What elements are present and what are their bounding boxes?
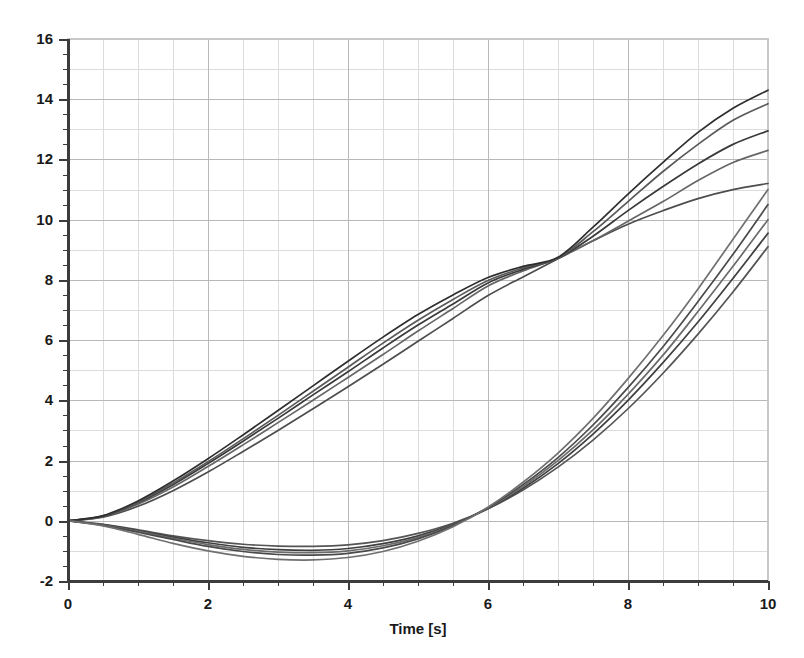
line-chart: 0246810 -20246810121416 Time [s]	[0, 0, 804, 658]
chart-container: 0246810 -20246810121416 Time [s]	[0, 0, 804, 658]
y-tick-label: 10	[36, 211, 53, 228]
y-tick-label: 6	[45, 331, 53, 348]
x-tick-label: 0	[64, 595, 72, 612]
y-tick-label: 8	[45, 271, 53, 288]
y-tick-label: 2	[45, 452, 53, 469]
y-tick-label: 4	[45, 391, 54, 408]
x-tick-label: 8	[624, 595, 632, 612]
x-tick-label: 4	[344, 595, 353, 612]
y-tick-label: 16	[36, 30, 53, 47]
y-tick-label: 12	[36, 150, 53, 167]
x-tick-label: 2	[204, 595, 212, 612]
y-tick-label: 14	[36, 90, 53, 107]
y-tick-label: -2	[40, 572, 53, 589]
x-tick-label: 10	[760, 595, 777, 612]
x-tick-label: 6	[484, 595, 492, 612]
x-axis-title: Time [s]	[389, 620, 446, 637]
y-tick-label: 0	[45, 512, 53, 529]
minor-gridlines	[68, 39, 768, 581]
